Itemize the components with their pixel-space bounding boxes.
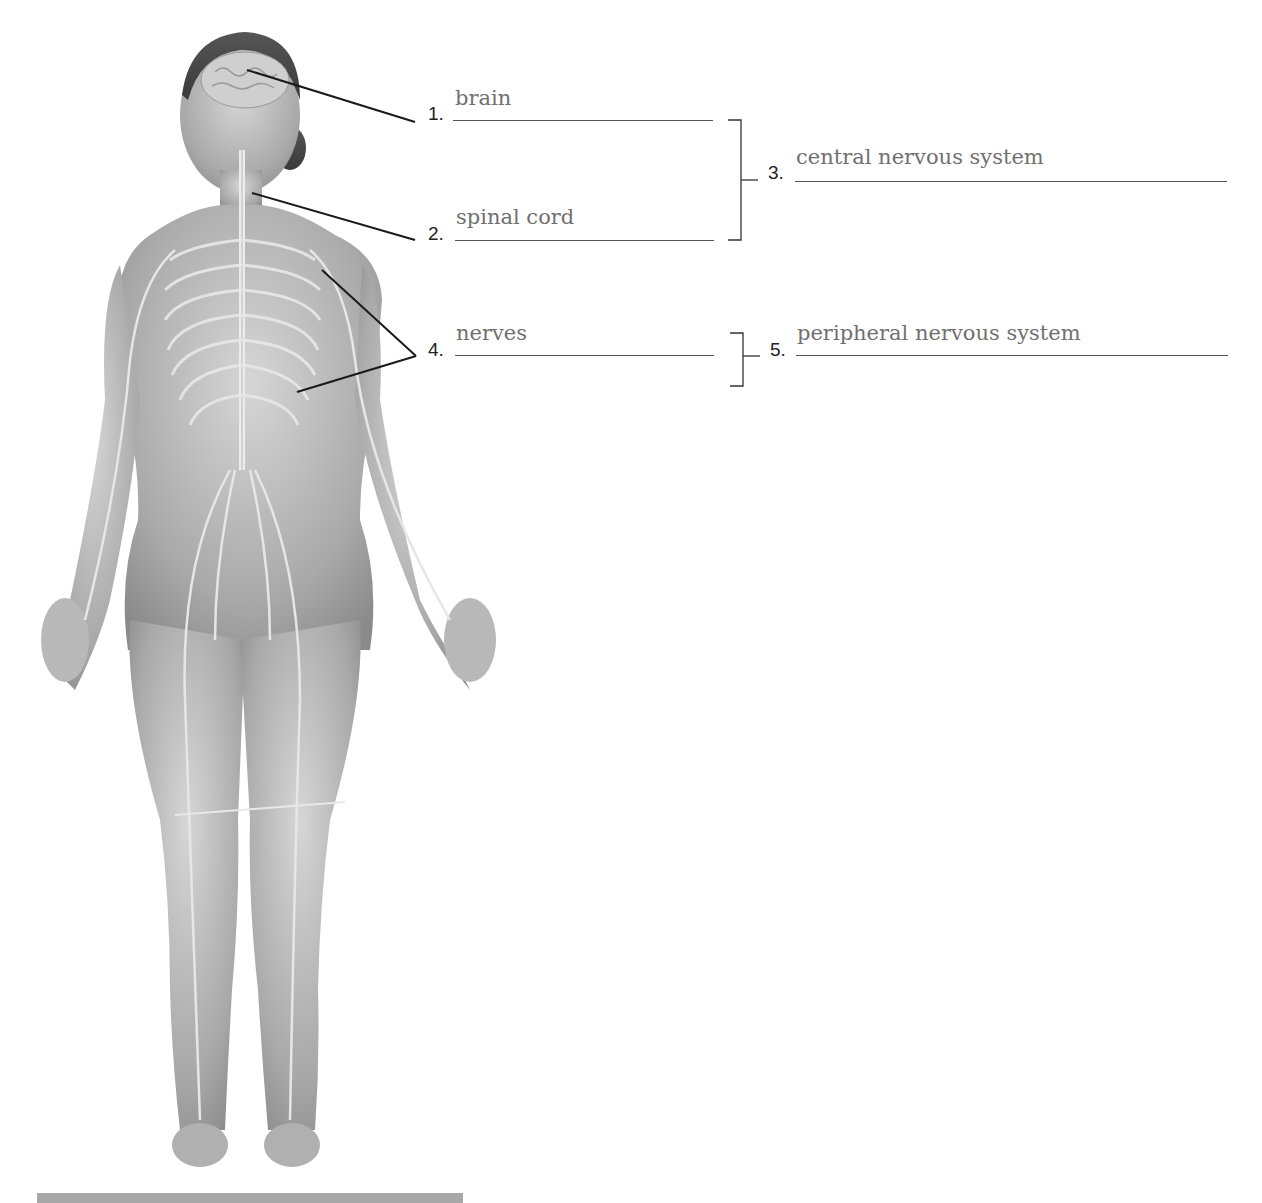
answer-peripheral-nervous-system[interactable]: peripheral nervous system — [797, 321, 1081, 345]
answer-line-4 — [455, 355, 714, 356]
label-number-3: 3. — [768, 162, 784, 184]
label-number-2: 2. — [428, 223, 444, 245]
brain-shape — [201, 52, 289, 108]
answer-line-5 — [796, 355, 1228, 356]
label-number-5: 5. — [770, 339, 786, 361]
footer-bar — [37, 1193, 463, 1203]
label-number-1: 1. — [428, 103, 444, 125]
answer-line-3 — [795, 181, 1227, 182]
answer-line-2 — [455, 240, 714, 241]
nervous-system-worksheet: 1. brain 2. spinal cord 3. central nervo… — [0, 0, 1262, 1203]
answer-central-nervous-system[interactable]: central nervous system — [796, 145, 1044, 169]
brackets — [728, 120, 760, 386]
label-number-4: 4. — [428, 339, 444, 361]
answer-nerves[interactable]: nerves — [456, 321, 527, 345]
answer-spinal-cord[interactable]: spinal cord — [456, 205, 574, 229]
answer-brain[interactable]: brain — [455, 86, 511, 110]
answer-line-1 — [453, 120, 713, 121]
